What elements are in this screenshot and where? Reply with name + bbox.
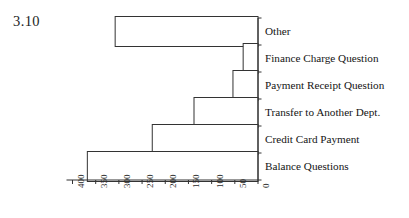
category-label: Credit Card Payment [265,134,359,145]
x-axis-tick-label: 100 [216,175,225,189]
bar [152,125,258,155]
category-label: Payment Receipt Question [265,80,384,91]
category-label: Other [265,26,290,37]
x-axis-tick-label: 150 [192,175,201,189]
x-axis-tick-label: 50 [239,179,248,188]
figure-container: 3.10 OtherFinance Charge QuestionPayment… [0,0,409,218]
bar [194,98,258,128]
bars-group [87,17,258,182]
bar [115,17,258,47]
x-axis-tick-label: 0 [262,184,271,189]
x-axis-tick-label: 250 [146,175,155,189]
x-axis-tick-label: 400 [77,175,86,189]
bar [243,44,258,74]
x-axis-tick-label: 350 [100,175,109,189]
category-label: Finance Charge Question [265,53,379,64]
category-label: Transfer to Another Dept. [265,107,380,118]
category-label: Balance Questions [265,161,349,172]
bar [233,71,258,101]
x-axis-tick-label: 200 [169,175,178,189]
x-axis-tick-label: 300 [123,175,132,189]
